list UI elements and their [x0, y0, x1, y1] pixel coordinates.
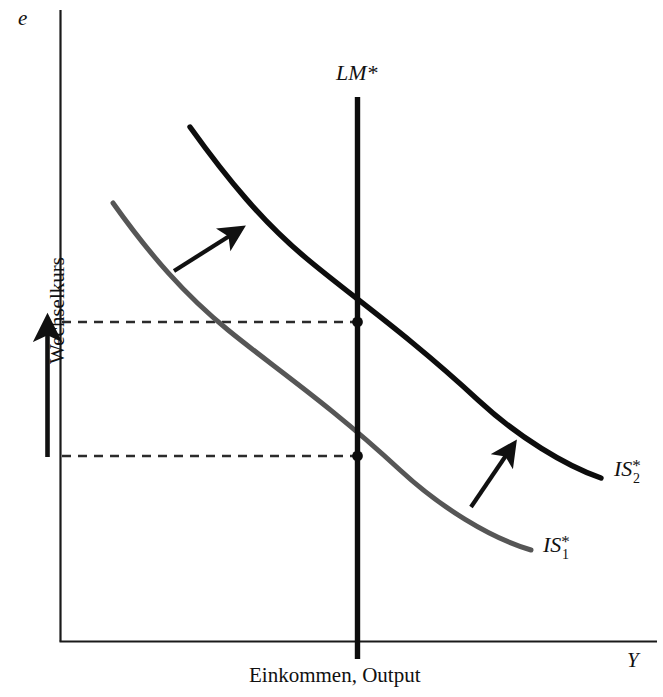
x-axis-title: Einkommen, Output — [249, 665, 421, 686]
is2-label-base: IS — [614, 456, 632, 481]
lm-curve-label: LM* — [336, 62, 378, 84]
x-axis-symbol: Y — [627, 650, 639, 671]
is2-curve-label: IS*2 — [614, 458, 641, 484]
diagram-canvas — [0, 0, 663, 697]
equilibrium-point-after — [352, 317, 363, 328]
shift-arrow-lower — [471, 454, 507, 507]
mundell-fleming-diagram: e Y Wechselkurs Einkommen, Output LM* IS… — [0, 0, 663, 697]
is1-curve — [113, 203, 531, 550]
shift-arrow-upper — [174, 235, 231, 271]
is1-label-base: IS — [543, 532, 561, 557]
is2-label-affixes: *2 — [632, 459, 641, 485]
equilibrium-point-initial — [352, 451, 363, 462]
is2-curve — [190, 127, 601, 478]
is1-label-subscript: 1 — [562, 549, 569, 561]
y-axis-title: Wechselkurs — [47, 221, 68, 401]
y-axis-symbol: e — [18, 8, 27, 29]
is1-curve-label: IS*1 — [543, 534, 570, 560]
is2-label-subscript: 2 — [633, 473, 640, 485]
is1-label-affixes: *1 — [561, 535, 570, 561]
